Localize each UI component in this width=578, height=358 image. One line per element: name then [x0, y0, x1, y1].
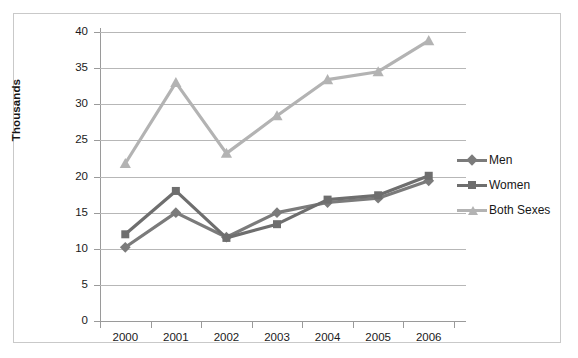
gridline	[100, 32, 466, 33]
series-women	[121, 172, 432, 242]
y-axis-tick	[94, 285, 100, 286]
legend-item-men[interactable]: Men	[457, 147, 561, 172]
x-axis-tick	[100, 321, 101, 328]
legend-item-label: Men	[489, 154, 512, 166]
y-axis-tick-label: 0	[52, 315, 88, 327]
diamond-marker-icon	[457, 154, 487, 166]
y-axis-tick-label: 40	[52, 26, 88, 38]
gridline	[100, 177, 466, 178]
x-axis-tick	[151, 321, 152, 328]
gridline	[100, 321, 466, 322]
data-point-marker	[222, 234, 230, 242]
y-axis-tick	[94, 140, 100, 141]
data-point-marker	[221, 232, 232, 243]
data-point-marker	[120, 158, 131, 168]
x-axis-tick	[403, 321, 404, 328]
gridline	[100, 213, 466, 214]
gridline	[100, 140, 466, 141]
x-axis-tick	[353, 321, 354, 328]
y-axis-tick-label: 30	[52, 98, 88, 110]
data-point-marker	[273, 220, 281, 228]
data-point-marker	[271, 110, 282, 120]
y-axis-tick	[94, 213, 100, 214]
chart-legend: MenWomenBoth Sexes	[457, 147, 561, 222]
data-point-marker	[170, 77, 181, 87]
x-axis-tick-label: 2006	[399, 332, 459, 344]
y-axis-tick-label: 10	[52, 243, 88, 255]
gridline	[100, 104, 466, 105]
y-axis-tick-label: 25	[52, 134, 88, 146]
y-axis-tick-label: 35	[52, 62, 88, 74]
data-point-marker	[374, 191, 382, 199]
x-axis-tick	[454, 321, 455, 328]
y-axis-tick	[94, 104, 100, 105]
data-point-marker	[172, 187, 180, 195]
series-men	[120, 175, 434, 252]
series-line	[125, 181, 428, 247]
square-marker-icon	[457, 179, 487, 191]
y-axis-tick-label: 5	[52, 279, 88, 291]
data-point-marker	[221, 148, 232, 158]
y-axis-tick	[94, 68, 100, 69]
gridline	[100, 249, 466, 250]
y-axis-tick-label: 20	[52, 171, 88, 183]
series-line	[125, 41, 428, 164]
legend-item-both-sexes[interactable]: Both Sexes	[457, 197, 561, 222]
series-both-sexes	[120, 35, 435, 168]
y-axis-title: Thousands	[10, 50, 26, 170]
data-point-marker	[322, 74, 333, 84]
legend-item-label: Both Sexes	[489, 204, 550, 216]
gridline	[100, 285, 466, 286]
triangle-marker-icon	[457, 204, 487, 216]
data-point-marker	[324, 196, 332, 204]
series-line	[125, 176, 428, 238]
legend-item-women[interactable]: Women	[457, 172, 561, 197]
data-point-marker	[121, 230, 129, 238]
data-point-marker	[322, 197, 333, 208]
y-axis-tick-label: 15	[52, 207, 88, 219]
y-axis-tick	[94, 249, 100, 250]
gridline	[100, 68, 466, 69]
chart-frame: Thousands 0510152025303540 2000200120022…	[13, 13, 561, 343]
data-point-marker	[373, 193, 384, 204]
y-axis-tick	[94, 177, 100, 178]
legend-item-label: Women	[489, 179, 530, 191]
data-point-marker	[120, 242, 131, 253]
x-axis-tick	[252, 321, 253, 328]
x-axis-tick	[201, 321, 202, 328]
data-point-marker	[423, 35, 434, 45]
y-axis-tick	[94, 32, 100, 33]
x-axis-tick	[302, 321, 303, 328]
